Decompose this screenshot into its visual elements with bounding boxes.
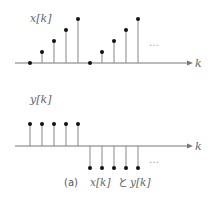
y-axis-label: k [195, 140, 202, 153]
y-axis-arrow-icon [187, 144, 193, 149]
y-plot: y[k] k … [15, 93, 202, 170]
x-axis-arrow-icon [187, 61, 193, 66]
y-point [52, 122, 56, 126]
x-point [136, 17, 140, 21]
y-point [28, 122, 32, 126]
caption: (a) x[k] と y[k] [64, 176, 151, 188]
caption-prefix: (a) [64, 177, 78, 188]
y-plot-label: y[k] [29, 93, 52, 106]
x-point [52, 39, 56, 43]
y-point [124, 166, 128, 170]
y-point [76, 122, 80, 126]
signal-diagram: x[k] k … y[k] k … (a) x[k] と y[k] [0, 0, 215, 199]
caption-x: x[k] [90, 176, 111, 188]
y-continuation: … [149, 154, 159, 165]
x-point [40, 50, 44, 54]
x-continuation: … [149, 37, 159, 48]
caption-joiner: と [118, 177, 128, 188]
x-plot-label: x[k] [30, 12, 52, 25]
y-point [40, 122, 44, 126]
caption-y: y[k] [129, 176, 151, 188]
x-point [28, 61, 32, 65]
y-point [136, 166, 140, 170]
x-point [64, 28, 68, 32]
x-point [76, 17, 80, 21]
x-point [112, 39, 116, 43]
x-point [100, 50, 104, 54]
x-point [124, 28, 128, 32]
x-point [88, 61, 92, 65]
y-point [64, 122, 68, 126]
y-point [112, 166, 116, 170]
x-plot: x[k] k … [15, 12, 202, 70]
y-point [88, 166, 92, 170]
y-point [100, 166, 104, 170]
x-axis-label: k [195, 57, 202, 70]
